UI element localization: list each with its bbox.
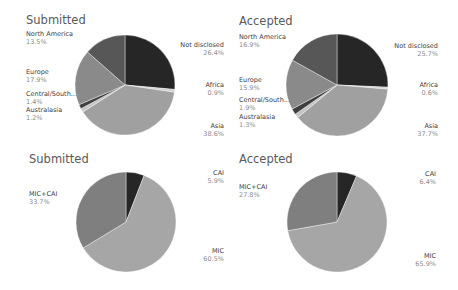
label-central-south: Central/South...1.4% [26, 91, 77, 106]
label-europe: Europe17.9% [26, 69, 49, 84]
label-north-america: North America13.5% [26, 31, 73, 46]
chart-accepted-region: Accepted North America16.9% Europe15.9% … [229, 0, 458, 145]
pie-chart [229, 145, 458, 290]
label-australasia: Australasia1.3% [239, 114, 275, 129]
chart-submitted-region: Submitted North America13.5% Europe17.9%… [0, 0, 229, 145]
label-africa: Africa0.9% [205, 82, 224, 97]
label-central-south: Central/South...1.9% [239, 97, 290, 112]
label-cai: CAI6.4% [419, 171, 436, 186]
label-asia: Asia38.6% [203, 123, 224, 138]
pie-slice [125, 35, 175, 89]
pie-slice [337, 34, 388, 87]
pie-chart [0, 145, 229, 290]
chart-submitted-type: Submitted MIC+CAI33.7% CAI5.9% MIC60.5% [0, 145, 229, 290]
label-cai: CAI5.9% [207, 170, 224, 185]
label-mic: MIC60.5% [203, 248, 224, 263]
label-north-america: North America16.9% [239, 34, 286, 49]
label-africa: Africa0.6% [419, 82, 438, 97]
label-mic-cai: MIC+CAI27.8% [239, 184, 267, 199]
label-not-disclosed: Not disclosed25.7% [394, 43, 438, 58]
label-mic-cai: MIC+CAI33.7% [29, 191, 57, 206]
label-europe: Europe15.9% [239, 77, 262, 92]
pie-slice [287, 172, 337, 231]
label-mic: MIC65.9% [415, 253, 436, 268]
label-not-disclosed: Not disclosed26.4% [180, 42, 224, 57]
label-asia: Asia37.7% [417, 123, 438, 138]
chart-accepted-type: Accepted MIC+CAI27.8% CAI6.4% MIC65.9% [229, 145, 458, 290]
label-australasia: Australasia1.2% [26, 107, 62, 122]
